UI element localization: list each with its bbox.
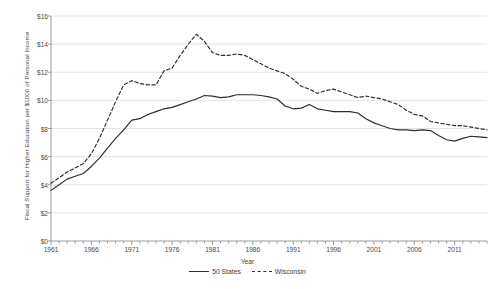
x-axis-tick-label: 1976: [165, 246, 180, 253]
chart-container: Fiscal Support for Higher Education per …: [0, 0, 495, 289]
legend-label-50-states: 50 States: [212, 268, 241, 275]
legend-swatch-dashed-icon: [252, 269, 272, 274]
x-axis-tick-label: 1996: [326, 246, 341, 253]
x-axis-tick-label: 2001: [367, 246, 382, 253]
chart-legend: 50 States Wisconsin: [0, 268, 495, 275]
legend-swatch-solid-icon: [189, 269, 209, 274]
x-axis-tick-label: 1981: [205, 246, 220, 253]
series-line-50-states: [51, 95, 487, 191]
x-axis-title: Year: [0, 258, 495, 265]
series-line-wisconsin: [51, 34, 487, 183]
x-axis-tick-label: 1966: [84, 246, 99, 253]
legend-item-50-states[interactable]: 50 States: [189, 268, 241, 275]
x-axis-tick-labels: 1961196619711976198119861991199620012006…: [0, 246, 495, 258]
x-axis-tick-label: 2011: [448, 246, 462, 253]
x-axis-tick-label: 1986: [246, 246, 261, 253]
x-axis-tick-label: 1991: [286, 246, 301, 253]
x-axis-tick-label: 1971: [124, 246, 139, 253]
legend-label-wisconsin: Wisconsin: [275, 268, 306, 275]
x-axis-tick-label: 2006: [407, 246, 422, 253]
x-axis-tick-label: 1961: [44, 246, 59, 253]
legend-item-wisconsin[interactable]: Wisconsin: [252, 268, 306, 275]
